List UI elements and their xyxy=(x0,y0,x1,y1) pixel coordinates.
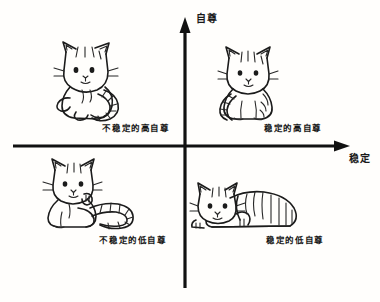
cat-illustration-unstable-low xyxy=(42,156,140,232)
quadrant-label-stable-high: 稳定的高自尊 xyxy=(264,124,322,133)
x-axis-arrowhead xyxy=(334,141,350,152)
quadrant-label-unstable-low: 不稳定的低自尊 xyxy=(99,236,166,245)
quadrant-label-stable-low: 稳定的低自尊 xyxy=(266,236,324,245)
x-axis-label: 稳定 xyxy=(349,154,371,164)
cat-illustration-unstable-high xyxy=(52,40,130,122)
cat-illustration-stable-low xyxy=(190,176,308,238)
cat-illustration-stable-high xyxy=(216,44,282,122)
quadrant-label-unstable-high: 不稳定的高自尊 xyxy=(102,124,169,133)
y-axis-arrowhead xyxy=(180,17,191,33)
quadrant-diagram: 自尊 稳定 xyxy=(0,0,380,302)
y-axis-label: 自尊 xyxy=(196,14,218,24)
